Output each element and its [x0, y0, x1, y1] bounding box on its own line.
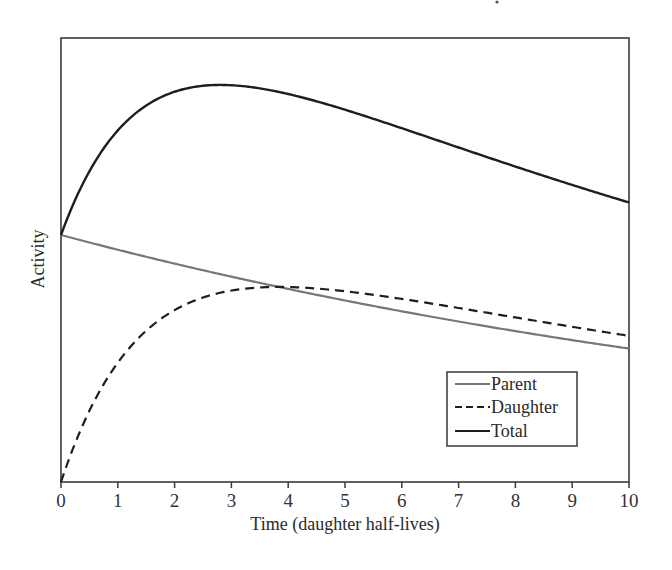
legend-label-total: Total — [491, 421, 528, 441]
y-axis-label: Activity — [28, 230, 48, 289]
x-tick-label: 2 — [170, 490, 180, 511]
total-curve — [61, 85, 629, 235]
x-tick-label: 9 — [567, 490, 577, 511]
x-axis-tick-labels: 012345678910 — [56, 490, 638, 511]
x-tick-label: 0 — [56, 490, 66, 511]
scan-artifact — [495, 0, 498, 3]
legend: Parent Daughter Total — [447, 372, 577, 446]
x-tick-label: 7 — [454, 490, 464, 511]
x-tick-label: 3 — [227, 490, 237, 511]
x-tick-label: 10 — [620, 490, 639, 511]
x-axis-label: Time (daughter half-lives) — [250, 514, 439, 535]
x-tick-label: 6 — [397, 490, 407, 511]
parent-curve — [61, 235, 629, 349]
legend-label-parent: Parent — [491, 374, 537, 394]
x-axis-ticks — [61, 482, 629, 488]
x-tick-label: 5 — [340, 490, 350, 511]
x-tick-label: 1 — [113, 490, 123, 511]
x-tick-label: 4 — [283, 490, 293, 511]
chart: 012345678910 Time (daughter half-lives) … — [0, 0, 672, 570]
legend-label-daughter: Daughter — [491, 397, 558, 417]
x-tick-label: 8 — [511, 490, 521, 511]
